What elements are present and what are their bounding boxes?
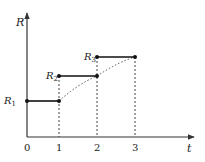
y-axis-label: R	[15, 16, 24, 29]
origin-label: 0	[24, 142, 30, 153]
point-r2-end	[95, 74, 99, 78]
x-axis-label: t	[187, 142, 192, 155]
x-tick-2: 2	[94, 142, 100, 153]
point-r3-end	[133, 55, 137, 59]
point-r1-start	[25, 99, 29, 103]
level-label-r3: R3	[83, 51, 96, 64]
point-r1-end	[57, 99, 61, 103]
step-diagram: R t 0 1 2 3 R1 R2 R3	[0, 0, 205, 162]
level-label-r2: R2	[45, 70, 58, 83]
x-tick-3: 3	[132, 142, 138, 153]
x-tick-1: 1	[56, 142, 62, 153]
level-label-r1: R1	[3, 95, 16, 108]
